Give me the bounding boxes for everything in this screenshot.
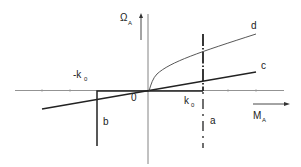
svg-text:A: A: [128, 20, 132, 26]
curve-a-label: a: [210, 115, 216, 126]
svg-text:M: M: [253, 110, 261, 121]
pos-k0-label: k 0: [184, 95, 195, 108]
svg-text:A: A: [262, 117, 266, 123]
x-axis-label: M A: [253, 110, 266, 123]
characteristic-diagram: Ω A M A 0 -k 0 k 0 a b c d: [0, 0, 301, 167]
y-direction-arrow-icon: [139, 13, 143, 40]
svg-text:0: 0: [84, 76, 88, 82]
origin-label: 0: [131, 92, 137, 103]
curve-b-label: b: [103, 116, 109, 127]
svg-text:0: 0: [191, 102, 195, 108]
curve-d-label: d: [251, 20, 257, 31]
y-axis-label: Ω A: [120, 12, 132, 26]
curve-c-label: c: [261, 60, 266, 71]
svg-text:Ω: Ω: [120, 12, 128, 23]
svg-text:-k: -k: [73, 69, 82, 80]
svg-text:k: k: [184, 95, 190, 106]
x-direction-arrow-icon: [253, 102, 290, 106]
neg-k0-label: -k 0: [73, 69, 88, 82]
